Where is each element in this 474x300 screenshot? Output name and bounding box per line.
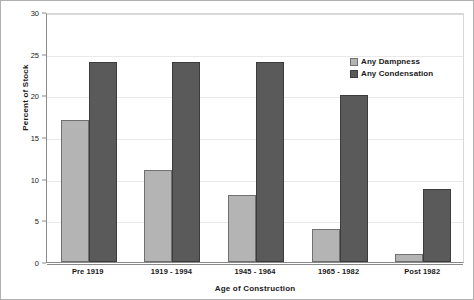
bar (89, 62, 117, 262)
bar-series-container (47, 14, 463, 262)
bar (395, 254, 423, 262)
bar (61, 120, 89, 262)
bar-group (312, 14, 368, 262)
x-axis-tick-labels: Pre 19191919 - 19941945 - 19641965 - 198… (46, 267, 464, 281)
legend-swatch-icon (350, 58, 358, 66)
bar-group (228, 14, 284, 262)
plot-area: Any DampnessAny Condensation (46, 13, 464, 263)
bar (340, 95, 368, 262)
bar-group (144, 14, 200, 262)
legend-swatch-icon (350, 70, 358, 78)
x-tick-label: 1965 - 1982 (318, 267, 359, 276)
chart-legend: Any DampnessAny Condensation (350, 57, 433, 78)
bar (172, 62, 200, 262)
y-tick-label: 20 (31, 92, 39, 101)
x-tick-label: Post 1982 (404, 267, 440, 276)
legend-item: Any Condensation (350, 69, 433, 78)
y-axis-tick-labels: 051015202530 (1, 13, 46, 263)
y-tick-label: 15 (31, 134, 39, 143)
legend-label: Any Condensation (361, 69, 433, 78)
y-tick-label: 25 (31, 50, 39, 59)
legend-item: Any Dampness (350, 57, 433, 66)
x-tick-label: Pre 1919 (72, 267, 104, 276)
y-tick-label: 0 (35, 259, 39, 268)
bar (312, 229, 340, 262)
y-tick-label: 30 (31, 9, 39, 18)
bar (256, 62, 284, 262)
bar (228, 195, 256, 262)
x-axis-title: Age of Construction (46, 284, 464, 293)
bar (423, 189, 451, 262)
x-tick-label: 1945 - 1964 (234, 267, 275, 276)
y-tick-label: 5 (35, 217, 39, 226)
bar (144, 170, 172, 262)
y-tick-label: 10 (31, 175, 39, 184)
bar-group (395, 14, 451, 262)
x-tick-label: 1919 - 1994 (151, 267, 192, 276)
gridline-0 (47, 264, 463, 265)
bar-chart-figure: Percent of Stock 051015202530 Any Dampne… (0, 0, 474, 300)
bar-group (61, 14, 117, 262)
legend-label: Any Dampness (361, 57, 420, 66)
